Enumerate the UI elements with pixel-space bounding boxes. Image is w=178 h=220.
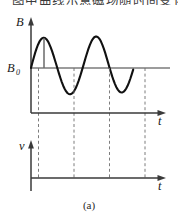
lower-panel: ν t (19, 139, 166, 193)
nu-axis-vertical (28, 140, 34, 191)
figure-svg: B B 0 t (0, 0, 178, 220)
b0-label-subscript: 0 (16, 68, 20, 77)
b0-label: B 0 (7, 61, 20, 77)
b-axis-label: B (16, 15, 24, 29)
b0-label-main: B (7, 61, 15, 75)
lower-t-axis-label: t (158, 179, 162, 193)
lower-t-axis (31, 175, 166, 181)
nu-axis-label: ν (19, 139, 25, 153)
b-sine-curve (31, 37, 133, 95)
figure-container: 图中曲线示意磁场随时间变化 B B 0 (0, 0, 178, 220)
figure-caption: (a) (83, 199, 96, 212)
upper-t-axis (31, 110, 166, 116)
upper-t-axis-label: t (158, 114, 162, 128)
